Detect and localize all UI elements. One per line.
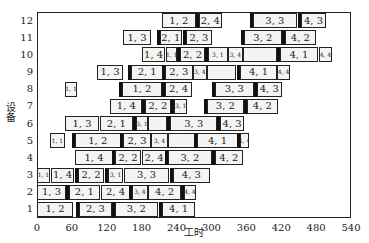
task-block: 4, 2 [285, 30, 316, 45]
task-block: 4, 4 [319, 47, 332, 62]
task-block: 2, 3 [165, 65, 193, 80]
task-block: 4, 1 [240, 65, 277, 80]
y-tick-label: 8 [17, 84, 33, 94]
task-block: 2, 4 [101, 185, 130, 200]
task-block: 2, 4 [165, 82, 192, 97]
x-tick-label: 420 [266, 223, 296, 233]
task-block: 2, 3 [123, 133, 151, 148]
x-tick-label: 120 [92, 223, 122, 233]
y-tick-label: 4 [17, 153, 33, 163]
task-block: 3, 3 [215, 82, 254, 97]
task-block: 1, 4 [51, 168, 74, 183]
task-block: 1, 2 [122, 82, 162, 97]
task-block: 3, 3 [170, 116, 217, 131]
task-block: 2, 1 [100, 116, 133, 131]
task-block: 4, 4 [240, 133, 249, 148]
task-block: 1, 3 [37, 185, 66, 200]
task-block: 2, 1 [131, 65, 163, 80]
task-block: 3, 4 [151, 133, 168, 148]
task-block: 2, 3 [186, 30, 212, 45]
task-block: 4, 4 [184, 185, 196, 200]
task-block: 3, 3 [253, 13, 297, 28]
task-block: 4, 1 [162, 202, 195, 217]
task-block: 4, 2 [148, 185, 181, 200]
task-block: 4, 1 [280, 47, 318, 62]
task-block: 4, 2 [247, 99, 278, 114]
y-tick-label: 6 [17, 119, 33, 129]
task-block: 4, 4 [277, 65, 290, 80]
y-tick-label: 9 [17, 67, 33, 77]
task-block: 4, 1 [197, 133, 238, 148]
task-block: 4, 3 [257, 82, 282, 97]
task-block: 4, 3 [220, 116, 244, 131]
x-tick-label: 360 [231, 223, 261, 233]
task-block: 3, 4 [228, 47, 243, 62]
task-block: 2, 4 [142, 150, 166, 165]
task-block: 2, 4 [199, 13, 222, 28]
task-block: 3, 4 [193, 65, 207, 80]
task-block: 4, 3 [173, 168, 210, 183]
y-tick-label: 1 [17, 204, 33, 214]
task-block: 3, 1 [108, 168, 123, 183]
task-block: 2, 2 [180, 47, 205, 62]
task-block: 1, 2 [37, 202, 73, 217]
task-block: 1, 3 [65, 116, 99, 131]
task-block: 1, 2 [162, 13, 196, 28]
task-block: 1, 4 [110, 99, 142, 114]
task-block: 1, 1 [65, 82, 77, 97]
task-block: 3, 3 [124, 168, 169, 183]
y-tick-label: 10 [17, 50, 33, 60]
task-block: 2, 3 [79, 202, 112, 217]
task-block: 3, 1 [136, 116, 148, 131]
idle-block [168, 133, 195, 148]
task-block: 2, 2 [78, 168, 104, 183]
y-tick-label: 3 [17, 170, 33, 180]
task-block: 2, 1 [69, 185, 100, 200]
task-block: 2, 2 [115, 150, 141, 165]
task-block: 2, 1 [160, 30, 182, 45]
task-block: 1, 3 [97, 65, 123, 80]
idle-block [148, 116, 167, 131]
task-block: 4, 2 [215, 150, 243, 165]
y-axis-title: 设备 [2, 102, 17, 122]
task-block: 3, 2 [207, 99, 244, 114]
gantt-chart: 123456789101112 060120180240300360420480… [0, 0, 369, 243]
task-block: 2, 2 [145, 99, 171, 114]
x-tick-label: 180 [127, 223, 157, 233]
x-tick-label: 480 [301, 223, 331, 233]
idle-block [243, 47, 277, 62]
task-block: 3, 1 [208, 47, 228, 62]
y-tick-label: 7 [17, 101, 33, 111]
task-block: 3, 1 [174, 99, 187, 114]
y-tick-label: 2 [17, 187, 33, 197]
task-block: 1, 4 [75, 150, 113, 165]
x-tick-label: 0 [22, 223, 52, 233]
task-block: 1, 3 [123, 30, 151, 45]
task-block: 3, 2 [168, 150, 212, 165]
task-block: 3, 2 [115, 202, 158, 217]
task-block: 3, 4 [132, 185, 148, 200]
x-tick-label: 60 [57, 223, 87, 233]
task-block: 1, 1 [166, 47, 177, 62]
task-block: 1, 1 [37, 168, 50, 183]
x-axis-title: 工时 [184, 224, 204, 239]
y-tick-label: 5 [17, 136, 33, 146]
y-tick-label: 11 [17, 33, 33, 43]
idle-block [207, 65, 236, 80]
task-block: 4, 3 [301, 13, 326, 28]
y-tick-label: 12 [17, 16, 33, 26]
task-block: 1, 4 [142, 47, 165, 62]
task-block: 1, 2 [75, 133, 121, 148]
x-tick-label: 540 [336, 223, 366, 233]
task-block: 1, 1 [50, 133, 65, 148]
task-block: 3, 2 [244, 30, 282, 45]
